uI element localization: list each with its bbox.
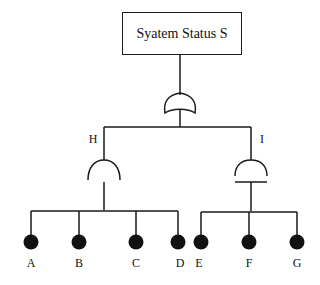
top-event-box: Syatem Status S: [122, 12, 242, 55]
and-gate-h-icon: [88, 160, 120, 180]
top-event-label: Syatem Status S: [136, 26, 227, 42]
basic-event-d-icon: [171, 235, 186, 250]
basic-event-label-a: A: [27, 256, 36, 271]
basic-event-label-e: E: [195, 256, 202, 271]
basic-event-label-g: G: [293, 256, 302, 271]
basic-event-a-icon: [24, 235, 39, 250]
basic-event-b-icon: [72, 235, 87, 250]
basic-event-label-d: D: [176, 256, 185, 271]
basic-event-f-icon: [242, 235, 257, 250]
basic-event-g-icon: [290, 235, 305, 250]
basic-event-label-f: F: [246, 256, 253, 271]
basic-event-label-b: B: [75, 256, 83, 271]
basic-event-e-icon: [194, 235, 209, 250]
and-gate-i-icon: [235, 160, 267, 176]
basic-event-c-icon: [129, 235, 144, 250]
basic-event-label-c: C: [132, 256, 140, 271]
event-label-i: I: [260, 132, 264, 147]
event-label-h: H: [89, 132, 98, 147]
